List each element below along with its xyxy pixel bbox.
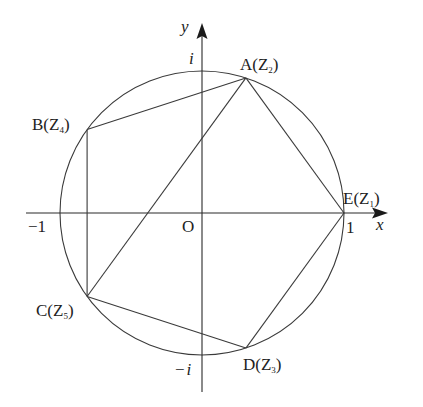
point-label-B: B(Z4) (32, 115, 70, 135)
neg-i-i: i (187, 360, 192, 379)
tick-label-i: i (189, 49, 194, 68)
point-label-E: E(Z1) (343, 189, 380, 209)
neg-i-minus: − (175, 360, 185, 379)
axes (26, 23, 388, 392)
complex-plane-diagram: y x O −1 1 i −i E(Z1) A(Z2) B(Z4) C(Z5) … (0, 0, 423, 407)
y-axis-label: y (179, 17, 189, 36)
point-label-A: A(Z2) (240, 55, 279, 75)
x-axis-label: x (375, 215, 384, 234)
tick-label-one: 1 (346, 218, 355, 237)
segment-AC (87, 78, 246, 297)
tick-label-neg-one: −1 (28, 217, 46, 236)
segment-DE (246, 213, 344, 348)
point-label-C: C(Z5) (36, 301, 74, 321)
origin-label: O (182, 217, 194, 236)
segment-EA (246, 78, 344, 213)
tick-label-neg-i: −i (175, 360, 192, 379)
point-label-D: D(Z3) (243, 355, 282, 375)
